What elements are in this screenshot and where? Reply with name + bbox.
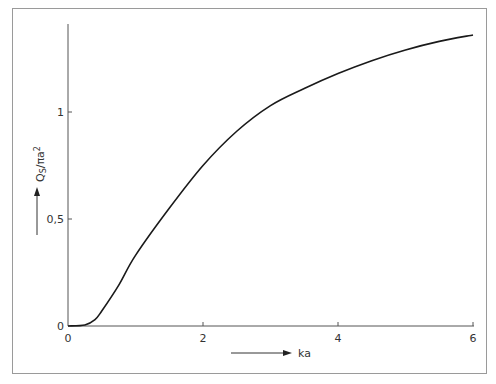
x-tick-label: 0 <box>65 332 72 345</box>
y-tick-label: 0,5 <box>47 213 65 226</box>
x-axis-label: ka <box>298 347 311 360</box>
y-tick-label: 0 <box>57 320 64 333</box>
y-tick-label: 1 <box>57 106 64 119</box>
x-arrow-head-icon <box>283 350 292 356</box>
chart-svg: 024600,51 ka QS/πa2 <box>0 0 496 384</box>
y-arrow-head-icon <box>34 187 40 196</box>
data-line <box>68 35 473 326</box>
x-tick-label: 4 <box>335 332 342 345</box>
y-axis-label: QS/πa2 <box>33 146 48 182</box>
x-tick-label: 2 <box>200 332 207 345</box>
x-tick-label: 6 <box>470 332 477 345</box>
